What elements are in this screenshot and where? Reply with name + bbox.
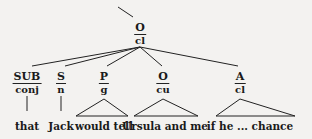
node-function: SUB	[13, 71, 42, 84]
edge-s	[65, 47, 140, 66]
triangle-o	[134, 99, 198, 116]
root-category: cl	[134, 35, 146, 46]
node-category: n	[56, 84, 66, 95]
node-category: g	[99, 84, 109, 95]
node-p: P g	[99, 71, 109, 95]
root-function: O	[134, 22, 146, 35]
node-function: O	[156, 71, 169, 84]
leaf-that: that	[15, 120, 39, 132]
node-a: A cl	[235, 71, 246, 95]
leaf-jack: Jack	[48, 120, 73, 132]
node-sub: SUB conj	[13, 71, 42, 95]
node-category: cu	[156, 84, 169, 95]
triangle-p	[76, 99, 128, 116]
edge-a	[140, 47, 238, 66]
node-s: S n	[56, 71, 66, 95]
triangle-a	[216, 99, 295, 116]
node-function: S	[56, 71, 66, 84]
node-o: O cu	[156, 71, 169, 95]
root-node: O cl	[134, 22, 146, 46]
leaf-if-he-chance: if he ... chance	[207, 120, 293, 132]
node-function: P	[99, 71, 109, 84]
parent-edge	[118, 7, 133, 17]
leaf-ursula-and-me: Ursula and me	[122, 120, 208, 132]
edge-o	[140, 47, 162, 66]
node-category: cl	[235, 84, 246, 95]
node-function: A	[235, 71, 246, 84]
tree-edges	[0, 0, 312, 139]
node-category: conj	[13, 84, 42, 95]
